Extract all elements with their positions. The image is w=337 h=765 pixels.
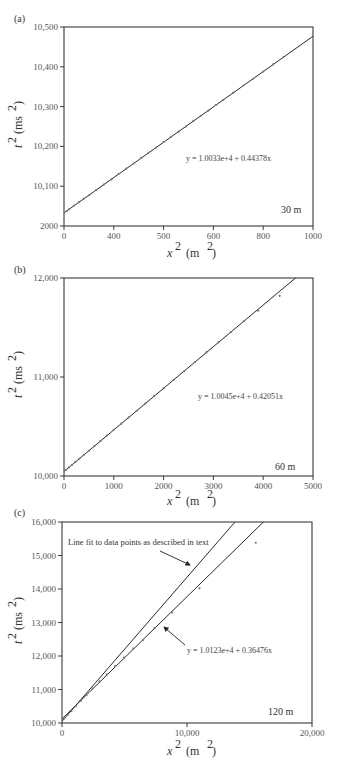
panel-c-reference-line-annotation: Line fit to data points as described in …	[68, 537, 209, 547]
y-tick-label: 10,400	[33, 62, 58, 72]
data-point	[262, 70, 264, 72]
data-point	[65, 210, 67, 212]
data-point	[279, 295, 281, 297]
svg-text:2: 2	[5, 137, 19, 143]
data-point	[163, 141, 165, 143]
data-point	[114, 665, 116, 667]
y-tick-label: 14,000	[31, 584, 56, 594]
data-point	[92, 687, 94, 689]
data-point	[65, 469, 67, 471]
data-point	[242, 84, 244, 86]
y-tick-label: 10,500	[33, 22, 58, 32]
data-point	[243, 320, 245, 322]
data-point	[153, 395, 155, 397]
data-point	[88, 450, 90, 452]
y-tick-label: 13,000	[31, 618, 56, 628]
x-tick-label: 20,000	[300, 728, 325, 738]
data-point	[61, 720, 63, 722]
panel-c-depth-label: 120 m	[268, 706, 294, 717]
data-point	[103, 184, 105, 186]
panel-a: (a) 200010,10010,20010,30010,40010,500 0…	[5, 13, 323, 260]
panel-a-fit-equation: y = 1.0033e+4 + 0.44378x	[186, 154, 271, 163]
x-tick-label: 500	[157, 231, 171, 241]
data-point	[123, 657, 125, 659]
data-point	[255, 542, 257, 544]
panel-c-annotation-arrow	[160, 551, 190, 565]
x-tick-label: 0	[62, 481, 67, 491]
data-point	[171, 611, 173, 613]
panel-c-y-ticks: 10,00011,00012,00013,00014,00015,00016,0…	[31, 517, 62, 728]
data-point	[63, 717, 65, 719]
plot-frame	[64, 27, 313, 226]
data-point	[215, 104, 217, 106]
panel-c-equation-arrow	[164, 627, 185, 645]
y-tick-label: 10,000	[33, 471, 58, 481]
panel-b-y-axis-title: t 2 (ms 2 )	[5, 351, 25, 398]
y-tick-label: 11,000	[34, 372, 59, 382]
data-point	[232, 92, 234, 94]
x-tick-label: 1000	[304, 231, 323, 241]
panel-b-x-ticks: 010002000300040005000	[62, 476, 323, 491]
data-point	[110, 178, 112, 180]
y-tick-label: 15,000	[31, 551, 56, 561]
data-point	[88, 194, 90, 196]
svg-text:(m: (m	[186, 744, 200, 758]
data-point	[170, 136, 172, 138]
svg-text:2: 2	[5, 633, 19, 639]
data-point	[183, 370, 185, 372]
svg-text:): )	[11, 597, 25, 601]
svg-text:x: x	[166, 494, 173, 508]
panel-a-y-ticks: 200010,10010,20010,30010,40010,500	[33, 22, 64, 231]
data-point	[133, 162, 135, 164]
data-point	[98, 680, 100, 682]
data-point	[257, 310, 259, 312]
data-point	[252, 78, 254, 80]
y-tick-label: 10,100	[33, 181, 58, 191]
data-point	[205, 351, 207, 353]
svg-text:x: x	[166, 246, 173, 260]
x-tick-label: 4000	[254, 481, 273, 491]
panel-b: (b) 10,00011,00012,000 01000200030004000…	[5, 263, 323, 508]
data-point	[73, 205, 75, 207]
svg-text:(m: (m	[186, 246, 200, 260]
panel-b-x-axis-title: x 2 (m 2 )	[166, 487, 216, 508]
data-point	[132, 648, 134, 650]
svg-text:2: 2	[5, 387, 19, 393]
x-tick-label: 800	[256, 231, 270, 241]
data-point	[207, 109, 209, 111]
panel-b-depth-label: 60 m	[275, 461, 296, 472]
data-point	[83, 197, 85, 199]
figure: (a) 200010,10010,20010,30010,40010,500 0…	[0, 0, 337, 765]
data-point	[99, 440, 101, 442]
x-tick-label: 2000	[155, 481, 174, 491]
svg-text:(ms: (ms	[11, 116, 25, 134]
data-point	[163, 387, 165, 389]
plot-frame	[62, 522, 312, 723]
svg-text:2: 2	[175, 737, 181, 751]
panel-c-fit-equation: y = 1.0123e+4 + 0.36476x	[187, 646, 272, 655]
data-point	[192, 120, 194, 122]
y-tick-label: 10,300	[33, 102, 58, 112]
data-point	[282, 56, 284, 58]
data-point	[106, 435, 108, 437]
data-point	[155, 146, 157, 148]
data-point	[80, 700, 82, 702]
data-point	[68, 208, 70, 210]
svg-text:t: t	[11, 640, 25, 644]
panel-b-y-ticks: 10,00011,00012,000	[33, 273, 64, 481]
svg-text:2: 2	[175, 487, 181, 501]
data-point	[185, 125, 187, 127]
y-tick-label: 12,000	[31, 651, 56, 661]
svg-text:t: t	[11, 394, 25, 398]
x-tick-label: 5000	[304, 481, 323, 491]
data-point	[67, 714, 69, 716]
data-point	[177, 131, 179, 133]
y-tick-label: 11,000	[32, 685, 57, 695]
data-point	[68, 466, 70, 468]
svg-text:(ms: (ms	[11, 612, 25, 630]
data-point	[125, 168, 127, 170]
data-point	[136, 410, 138, 412]
data-point	[148, 152, 150, 154]
svg-text:): )	[11, 351, 25, 355]
data-point	[120, 423, 122, 425]
